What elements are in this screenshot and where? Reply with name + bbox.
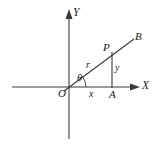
point-p-label: P xyxy=(103,42,110,53)
origin-label: O xyxy=(58,88,66,99)
opposite-leg-y-label: y xyxy=(115,63,119,73)
angle-theta-label: θ xyxy=(77,73,82,84)
angle-theta-arc xyxy=(83,77,87,87)
point-a-label: A xyxy=(109,89,116,100)
y-axis-label: Y xyxy=(73,7,79,19)
hypotenuse-r-label: r xyxy=(86,60,90,70)
ray-end-b-label: B xyxy=(135,31,142,42)
y-axis-arrowhead xyxy=(66,9,73,19)
x-axis-label: X xyxy=(142,80,149,92)
figure-canvas: X Y O P A B r x y θ xyxy=(0,0,159,145)
adjacent-leg-x-label: x xyxy=(89,89,93,99)
x-axis-arrowhead xyxy=(130,83,140,90)
ray-ob xyxy=(64,39,134,91)
